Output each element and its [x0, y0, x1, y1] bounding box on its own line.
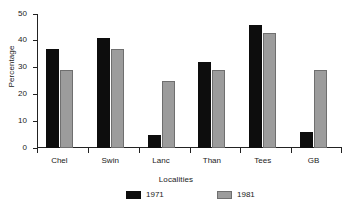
bar-than-1981: [212, 70, 225, 148]
bar-chel-1981: [60, 70, 73, 148]
bar-swin-1981: [111, 49, 124, 148]
legend-swatch-1981: [217, 191, 232, 199]
y-axis-tick-label: 40: [18, 35, 27, 44]
x-axis-tick-label: GB: [308, 156, 320, 165]
x-axis-tick-label: Tees: [254, 156, 271, 165]
bar-gb-1971: [300, 132, 313, 148]
x-axis-tick: [190, 148, 191, 153]
x-axis-tick: [341, 148, 342, 153]
y-axis-title: Percentage: [7, 27, 16, 107]
y-axis-tick: 20: [33, 94, 37, 95]
x-axis-tick-label: Swin: [102, 156, 119, 165]
x-axis-tick: [37, 148, 38, 153]
chart-legend: 19711981: [0, 190, 352, 202]
bar-than-1971: [198, 62, 211, 148]
y-axis-tick: 40: [33, 40, 37, 41]
x-axis-tick: [139, 148, 140, 153]
y-axis-tick-label: 0: [23, 143, 27, 152]
y-axis-tick-label: 20: [18, 89, 27, 98]
y-axis-tick: 10: [33, 121, 37, 122]
x-axis-tick-label: Than: [203, 156, 221, 165]
legend-item-1971: 1971: [126, 190, 164, 200]
bar-chel-1971: [46, 49, 59, 148]
x-axis-title: Localities: [0, 175, 352, 184]
x-axis-tick-label: Lanc: [152, 156, 169, 165]
legend-swatch-1971: [126, 191, 141, 199]
x-axis-tick-label: Chel: [51, 156, 67, 165]
x-axis-tick: [240, 148, 241, 153]
y-axis-tick-label: 30: [18, 62, 27, 71]
y-axis-tick: 30: [33, 67, 37, 68]
legend-label: 1971: [146, 190, 164, 200]
legend-label: 1981: [237, 190, 255, 200]
bar-tees-1981: [263, 33, 276, 148]
bar-chart: Percentage 01020304050ChelSwinLancThanTe…: [0, 0, 352, 206]
bar-gb-1981: [314, 70, 327, 148]
y-axis-tick-label: 50: [18, 9, 27, 18]
x-axis-tick: [88, 148, 89, 153]
legend-item-1981: 1981: [217, 190, 255, 200]
bar-lanc-1981: [162, 81, 175, 148]
y-axis-tick: 50: [33, 14, 37, 15]
x-axis-tick: [291, 148, 292, 153]
y-axis-tick-label: 10: [18, 116, 27, 125]
bar-lanc-1971: [148, 135, 161, 148]
y-axis-line: [37, 14, 38, 148]
bar-tees-1971: [249, 25, 262, 148]
plot-area: 01020304050ChelSwinLancThanTeesGB: [37, 14, 342, 148]
bar-swin-1971: [97, 38, 110, 148]
